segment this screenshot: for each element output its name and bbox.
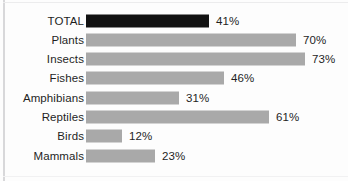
bar-fill	[86, 91, 179, 104]
bar-fill	[86, 72, 224, 85]
bar-category-label: Birds	[57, 130, 84, 142]
bar	[86, 14, 209, 27]
bar-value-label: 46%	[231, 72, 254, 84]
bar	[86, 91, 179, 104]
bar-fill	[86, 53, 305, 66]
bar-value-label: 73%	[312, 53, 335, 65]
bar-value-label: 31%	[186, 92, 209, 104]
bar	[86, 72, 224, 85]
bar-chart-figure: TOTAL41%Plants70%Insects73%Fishes46%Amph…	[0, 0, 348, 181]
bar-row: Birds12%	[0, 127, 348, 146]
chart-plot-area: TOTAL41%Plants70%Insects73%Fishes46%Amph…	[0, 0, 348, 181]
bar	[86, 53, 305, 66]
bar-value-label: 23%	[162, 150, 185, 162]
bar-fill	[86, 33, 296, 46]
bar-category-label: Insects	[47, 53, 84, 65]
bar-category-label: Mammals	[33, 150, 84, 162]
bar-row: Mammals23%	[0, 146, 348, 165]
bar-value-label: 12%	[129, 130, 152, 142]
bar	[86, 111, 269, 124]
bar-fill	[86, 130, 122, 143]
bar-category-label: TOTAL	[48, 15, 85, 27]
bar-value-label: 70%	[303, 34, 326, 46]
bar-value-label: 61%	[276, 111, 299, 123]
bar-row: Amphibians31%	[0, 88, 348, 107]
bar	[86, 149, 155, 162]
bar-row: TOTAL41%	[0, 11, 348, 30]
bar-row: Reptiles61%	[0, 108, 348, 127]
bar	[86, 130, 122, 143]
bar-fill	[86, 149, 155, 162]
bar-fill	[86, 14, 209, 27]
bar-value-label: 41%	[216, 15, 239, 27]
bar	[86, 33, 296, 46]
bar-category-label: Reptiles	[42, 111, 84, 123]
bar-category-label: Fishes	[50, 72, 84, 84]
bar-category-label: Plants	[51, 34, 84, 46]
bar-row: Plants70%	[0, 30, 348, 49]
bar-row: Insects73%	[0, 50, 348, 69]
bar-row: Fishes46%	[0, 69, 348, 88]
bar-fill	[86, 111, 269, 124]
bar-category-label: Amphibians	[23, 92, 84, 104]
